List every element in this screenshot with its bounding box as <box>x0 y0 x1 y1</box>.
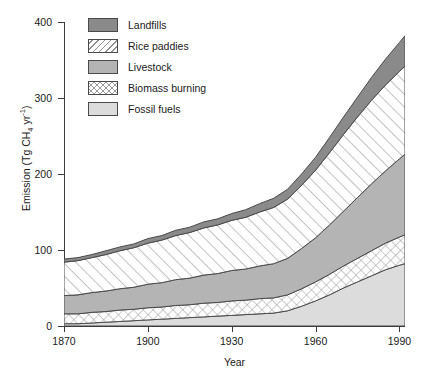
y-axis-label: Emission (Tg CH4 yr-1) <box>18 48 35 268</box>
x-tick-label: 1930 <box>210 336 254 347</box>
chart-legend: LandfillsRice paddiesLivestockBiomass bu… <box>88 14 206 119</box>
y-axis-label-text: Emission (Tg CH4 yr-1) <box>19 106 31 211</box>
legend-item-biomass-burning[interactable]: Biomass burning <box>88 77 206 98</box>
x-axis-label: Year <box>64 356 405 368</box>
legend-item-landfills[interactable]: Landfills <box>88 14 206 35</box>
legend-swatch-solid-light-icon <box>88 102 118 116</box>
legend-label: Fossil fuels <box>128 103 181 115</box>
legend-label: Rice paddies <box>128 40 189 52</box>
legend-label: Biomass burning <box>128 82 206 94</box>
x-tick-mark <box>399 326 400 332</box>
x-tick-mark <box>316 326 317 332</box>
legend-label: Landfills <box>128 19 167 31</box>
x-tick-mark <box>232 326 233 332</box>
x-tick-mark <box>148 326 149 332</box>
methane-emission-stacked-area-chart: 0100200300400 18701900193019601990 Emiss… <box>0 0 426 381</box>
legend-item-fossil-fuels[interactable]: Fossil fuels <box>88 98 206 119</box>
legend-swatch-diagonal-icon <box>88 39 118 53</box>
x-tick-label: 1900 <box>126 336 170 347</box>
legend-item-livestock[interactable]: Livestock <box>88 56 206 77</box>
x-tick-label: 1960 <box>294 336 338 347</box>
legend-swatch-solid-dark-icon <box>88 18 118 32</box>
legend-item-rice-paddies[interactable]: Rice paddies <box>88 35 206 56</box>
legend-label: Livestock <box>128 61 172 73</box>
x-tick-label: 1990 <box>377 336 421 347</box>
y-tick-label: 0 <box>18 321 52 331</box>
legend-swatch-solid-medium-icon <box>88 60 118 74</box>
legend-swatch-crosshatch-icon <box>88 81 118 95</box>
x-axis-line <box>64 326 405 327</box>
y-tick-label: 400 <box>18 17 52 27</box>
x-tick-mark <box>64 326 65 332</box>
x-tick-label: 1870 <box>42 336 86 347</box>
